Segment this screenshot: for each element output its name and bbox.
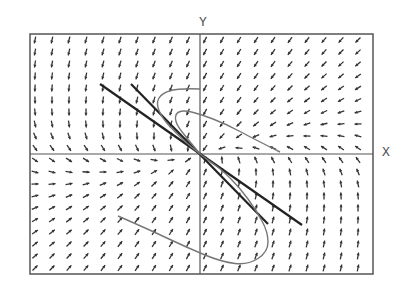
solution-trajectories — [118, 89, 280, 264]
trajectory-lower-loop — [118, 154, 268, 264]
trajectory-upper-loop-outer — [158, 89, 201, 154]
x-axis-label: X — [382, 144, 390, 159]
direction-field-plot — [0, 0, 407, 304]
y-axis-label: Y — [199, 14, 207, 29]
